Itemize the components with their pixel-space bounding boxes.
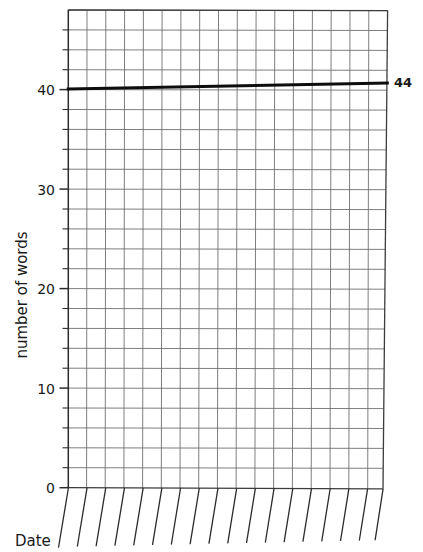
x-axis-title: Date bbox=[15, 532, 51, 550]
chart-canvas: 40 30 20 10 0 number of words 44 bbox=[0, 0, 423, 552]
y-tick-label-0: 0 bbox=[46, 480, 55, 496]
y-tick-label-30: 30 bbox=[37, 182, 55, 198]
y-tick-label-20: 20 bbox=[37, 281, 55, 297]
y-tick-label-40: 40 bbox=[37, 82, 55, 98]
y-tick-label-10: 10 bbox=[37, 381, 55, 397]
blank-word-count-graph: 40 30 20 10 0 number of words 44 bbox=[0, 0, 423, 552]
goal-line-value-label: 44 bbox=[394, 75, 412, 90]
y-axis-title: number of words bbox=[13, 231, 31, 358]
